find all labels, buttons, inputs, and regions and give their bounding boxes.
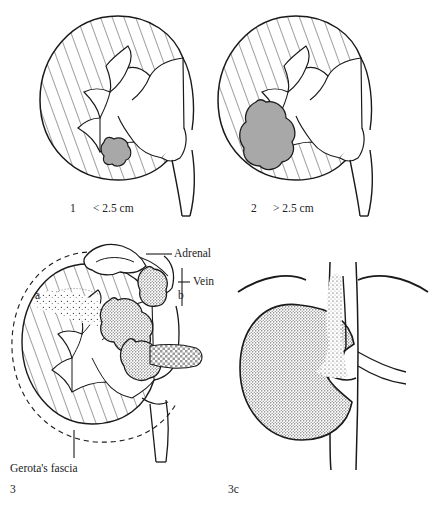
kidney-staging-figure — [0, 0, 445, 506]
panel-1-number: 1 — [70, 203, 76, 215]
panel-2-size-label: > 2.5 cm — [273, 203, 314, 215]
gerotas-fascia-label: Gerota's fascia — [10, 463, 78, 475]
panel-2-number: 2 — [251, 203, 257, 215]
vein-label: Vein — [193, 276, 214, 288]
panel-3c-number: 3c — [228, 484, 239, 496]
adrenal-label: Adrenal — [174, 248, 211, 260]
marker-a-label: a — [35, 290, 40, 302]
panel-1-size-label: < 2.5 cm — [93, 203, 134, 215]
panel-3-number: 3 — [10, 484, 16, 496]
marker-b-label: b — [178, 290, 184, 302]
